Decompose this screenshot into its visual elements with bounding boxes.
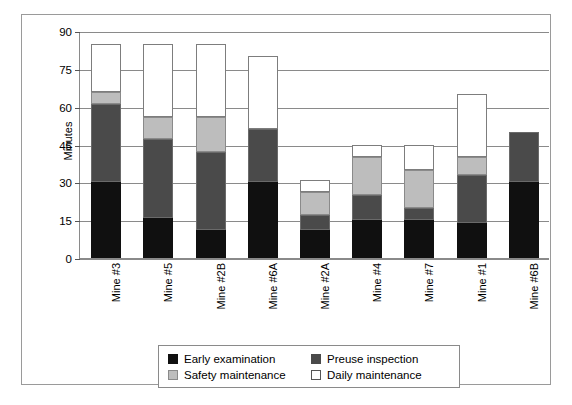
bar-segment[interactable]: [196, 230, 226, 258]
x-tick-label: Mine #2B: [215, 263, 227, 309]
bar-segment[interactable]: [143, 117, 173, 140]
bar-segment[interactable]: [300, 215, 330, 230]
plot-area: 0153045607590: [79, 32, 549, 259]
x-tick-label: Mine #7: [423, 263, 435, 302]
x-tick-label: Mine #6A: [267, 263, 279, 309]
bar-segment[interactable]: [300, 230, 330, 258]
bar-segment[interactable]: [143, 218, 173, 258]
bar-segment[interactable]: [300, 180, 330, 193]
bar-segment[interactable]: [352, 145, 382, 158]
chart-legend: Early examinationPreuse inspectionSafety…: [158, 345, 460, 388]
bar-segment[interactable]: [300, 192, 330, 215]
bar-segment[interactable]: [404, 145, 434, 170]
bar-segment[interactable]: [457, 157, 487, 175]
bar-segment[interactable]: [457, 175, 487, 223]
y-tick-label: 45: [59, 140, 72, 152]
legend-item[interactable]: Daily maintenance: [311, 369, 450, 381]
bar-segment[interactable]: [457, 94, 487, 157]
x-tick-label: Mine #5: [162, 263, 174, 302]
x-tick-label: Mine #1: [476, 263, 488, 302]
y-tick-label: 90: [59, 26, 72, 38]
bar-segment[interactable]: [248, 182, 278, 258]
x-tick-label: Mine #6B: [528, 263, 540, 309]
legend-label: Safety maintenance: [184, 369, 286, 381]
bar-segment[interactable]: [196, 117, 226, 152]
bar-segment[interactable]: [457, 223, 487, 258]
bar-group[interactable]: [196, 32, 226, 258]
legend-item[interactable]: Safety maintenance: [168, 369, 307, 381]
bar-segment[interactable]: [352, 220, 382, 258]
legend-swatch-icon: [168, 354, 178, 364]
bar-segment[interactable]: [248, 129, 278, 182]
x-axis-labels: Mine #3Mine #5Mine #2BMine #6AMine #2AMi…: [79, 263, 549, 325]
legend-swatch-icon: [311, 354, 321, 364]
bar-segment[interactable]: [143, 139, 173, 217]
legend-swatch-icon: [311, 370, 321, 380]
bar-group[interactable]: [404, 32, 434, 258]
y-tick-label: 75: [59, 64, 72, 76]
chart-figure-frame: Minutes 0153045607590 Mine #3Mine #5Mine…: [21, 14, 551, 385]
bar-segment[interactable]: [196, 44, 226, 117]
legend-label: Early examination: [184, 353, 275, 365]
bar-group[interactable]: [248, 32, 278, 258]
legend-swatch-icon: [168, 370, 178, 380]
legend-item[interactable]: Early examination: [168, 353, 307, 365]
bar-segment[interactable]: [509, 132, 539, 182]
bar-group[interactable]: [509, 32, 539, 258]
x-tick-label: Mine #3: [110, 263, 122, 302]
bar-segment[interactable]: [404, 208, 434, 221]
y-tick-label: 60: [59, 102, 72, 114]
bar-segment[interactable]: [196, 152, 226, 230]
bar-group[interactable]: [457, 32, 487, 258]
bar-group[interactable]: [352, 32, 382, 258]
bar-segment[interactable]: [91, 104, 121, 182]
y-tick-label: 30: [59, 177, 72, 189]
x-tick-label: Mine #2A: [319, 263, 331, 309]
bar-segment[interactable]: [248, 56, 278, 129]
bar-group[interactable]: [143, 32, 173, 258]
bar-segment[interactable]: [91, 44, 121, 92]
legend-label: Preuse inspection: [327, 353, 418, 365]
bar-group[interactable]: [91, 32, 121, 258]
y-tick-label: 0: [66, 253, 72, 265]
legend-item[interactable]: Preuse inspection: [311, 353, 450, 365]
bar-segment[interactable]: [91, 92, 121, 105]
bar-group[interactable]: [300, 32, 330, 258]
bar-segment[interactable]: [509, 182, 539, 258]
gridline: [80, 259, 549, 260]
bar-segment[interactable]: [91, 182, 121, 258]
bar-segment[interactable]: [352, 195, 382, 220]
y-tick-mark: [75, 259, 80, 260]
y-tick-label: 15: [59, 215, 72, 227]
bar-segment[interactable]: [404, 220, 434, 258]
bar-segment[interactable]: [404, 170, 434, 208]
x-tick-label: Mine #4: [371, 263, 383, 302]
bars-layer: [80, 32, 549, 258]
bar-segment[interactable]: [352, 157, 382, 195]
legend-label: Daily maintenance: [327, 369, 422, 381]
bar-segment[interactable]: [143, 44, 173, 117]
